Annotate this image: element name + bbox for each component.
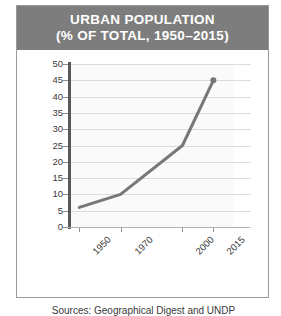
y-axis-tick-mark xyxy=(63,129,68,130)
y-axis-tick-label: 25 xyxy=(41,141,63,151)
chart-plot-wrapper: 05101520253035404550 1950197020002015 So… xyxy=(17,50,270,297)
y-axis-tick-label: 45 xyxy=(41,75,63,85)
x-axis-tick-mark xyxy=(79,228,80,232)
y-axis-tick-mark xyxy=(63,162,68,163)
y-axis-tick-label: 35 xyxy=(41,108,63,118)
x-axis-tick-mark xyxy=(182,228,183,232)
series-endpoint-marker xyxy=(210,77,216,83)
y-axis-tick-label: 30 xyxy=(41,124,63,134)
x-axis-tick-mark xyxy=(121,228,122,232)
y-axis-tick-mark xyxy=(63,227,68,228)
chart-title-line-1: URBAN POPULATION xyxy=(70,12,215,28)
source-note: Sources: Geographical Digest and UNDP xyxy=(17,305,270,316)
chart-title-bar: URBAN POPULATION (% OF TOTAL, 1950–2015) xyxy=(17,6,268,50)
y-axis-tick-mark xyxy=(63,97,68,98)
x-axis-tick-mark xyxy=(213,228,214,232)
x-axis-tick-label: 1970 xyxy=(132,234,155,257)
y-axis-tick-labels: 05101520253035404550 xyxy=(17,50,63,297)
x-axis-spine xyxy=(68,227,250,228)
y-axis-tick-label: 40 xyxy=(41,92,63,102)
y-axis-tick-label: 15 xyxy=(41,173,63,183)
y-axis-tick-mark xyxy=(63,113,68,114)
chart-title-line-2: (% OF TOTAL, 1950–2015) xyxy=(56,28,229,44)
y-axis-tick-label: 0 xyxy=(41,222,63,232)
chart-card: URBAN POPULATION (% OF TOTAL, 1950–2015)… xyxy=(16,5,269,298)
y-axis-tick-label: 20 xyxy=(41,157,63,167)
y-axis-tick-mark xyxy=(63,211,68,212)
y-axis-tick-mark xyxy=(63,80,68,81)
x-axis-tick-label: 2000 xyxy=(194,234,217,257)
y-axis-tick-label: 50 xyxy=(41,59,63,69)
y-axis-tick-mark xyxy=(63,194,68,195)
y-axis-tick-mark xyxy=(63,146,68,147)
y-axis-tick-label: 5 xyxy=(41,206,63,216)
y-axis-tick-label: 10 xyxy=(41,189,63,199)
y-axis-tick-mark xyxy=(63,64,68,65)
series-line-urban-population xyxy=(69,64,234,227)
x-axis-tick-label: 1950 xyxy=(91,234,114,257)
x-axis-tick-label: 2015 xyxy=(225,234,248,257)
y-axis-tick-mark xyxy=(63,178,68,179)
